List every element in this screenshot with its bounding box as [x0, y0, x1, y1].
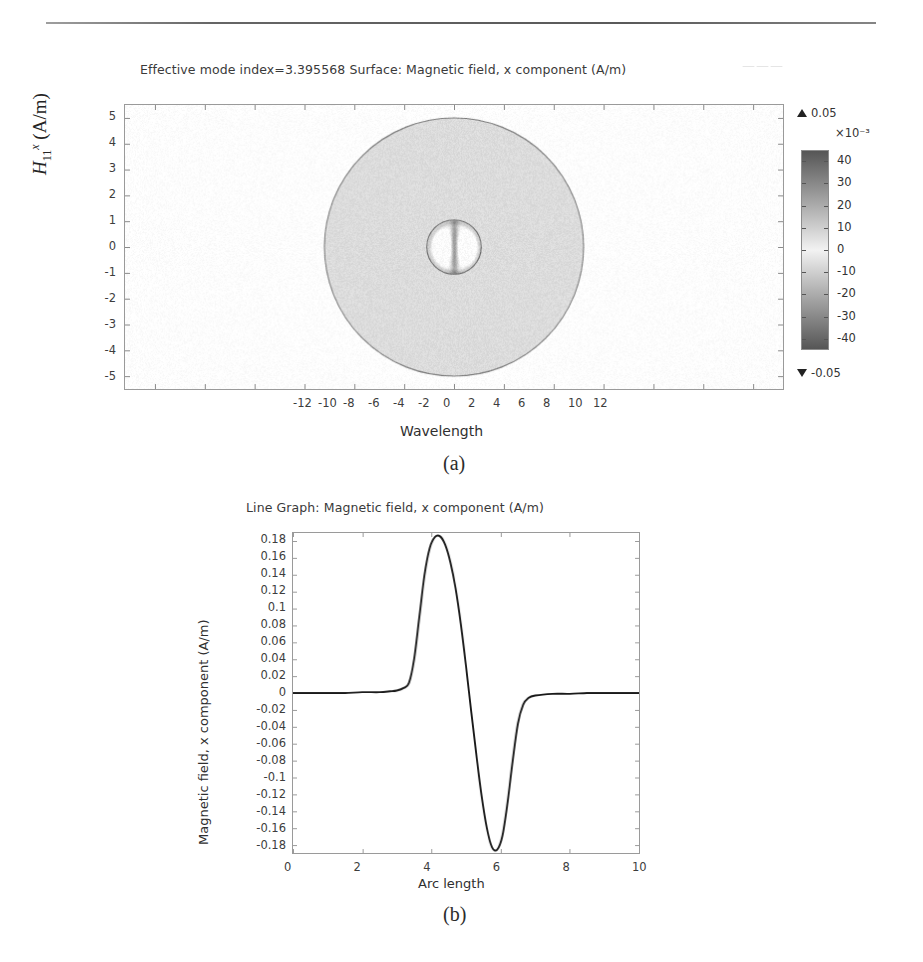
surface-y-axis-title: H11x (A/m): [28, 93, 55, 175]
line-y-tick-15: -0.12: [246, 787, 286, 801]
surface-y-tick-10: -5: [90, 369, 116, 383]
line-y-tick-18: -0.18: [246, 838, 286, 852]
line-x-axis-title: Arc length: [418, 876, 485, 891]
surface-x-tick-10: 8: [543, 396, 550, 410]
colorbar-tickmark-4: [802, 250, 806, 251]
surface-y-tick-5: 0: [90, 239, 116, 253]
triangle-down-icon: [797, 369, 807, 377]
line-y-tick-7: 0.04: [246, 651, 286, 665]
surface-y-tick-2: 3: [90, 161, 116, 175]
line-y-tick-5: 0.08: [246, 617, 286, 631]
surface-x-tick-3: -6: [368, 396, 379, 410]
colorbar-tickmark-2: [802, 206, 806, 207]
colorbar-tickmark-0: [802, 161, 806, 162]
line-y-tick-13: -0.08: [246, 753, 286, 767]
colorbar-tickmark-3: [802, 228, 806, 229]
panel-b-caption: (b): [443, 903, 466, 926]
line-plot-title: Line Graph: Magnetic field, x component …: [246, 500, 544, 515]
surface-x-tick-4: -4: [393, 396, 404, 410]
line-plot-canvas: [293, 533, 639, 853]
line-y-tick-10: -0.02: [246, 702, 286, 716]
line-y-tick-6: 0.06: [246, 634, 286, 648]
line-x-tick-5: 10: [632, 860, 647, 874]
surface-y-tick-8: -3: [90, 317, 116, 331]
surface-x-tick-2: -8: [343, 396, 354, 410]
colorbar-tickmark-right-8: [824, 339, 828, 340]
y-axis-subscript: 11: [40, 150, 54, 162]
line-x-tick-1: 2: [354, 860, 361, 874]
surface-x-tick-11: 10: [568, 396, 583, 410]
colorbar-tick-1: 30: [837, 175, 852, 189]
surface-y-tick-7: -2: [90, 291, 116, 305]
colorbar-tick-0: 40: [837, 153, 852, 167]
colorbar-tickmark-right-3: [824, 228, 828, 229]
surface-y-tick-6: -1: [90, 265, 116, 279]
colorbar-tickmark-right-2: [824, 206, 828, 207]
colorbar-tickmark-right-0: [824, 161, 828, 162]
surface-x-tick-9: 6: [518, 396, 525, 410]
line-y-tick-0: 0.18: [246, 532, 286, 546]
scan-artifact: ———: [742, 58, 872, 84]
colorbar: 0.05 ×10⁻³ 403020100-10-20-30-40 -0.05: [795, 104, 920, 394]
surface-y-tick-0: 5: [90, 109, 116, 123]
triangle-up-icon: [797, 109, 807, 117]
line-x-tick-2: 4: [423, 860, 430, 874]
colorbar-tick-6: -20: [837, 286, 856, 300]
surface-y-tick-9: -4: [90, 343, 116, 357]
line-x-tick-4: 8: [562, 860, 569, 874]
line-y-tick-9: 0: [246, 685, 286, 699]
line-y-tick-14: -0.1: [246, 770, 286, 784]
colorbar-max-row: 0.05: [797, 106, 837, 120]
line-y-tick-11: -0.04: [246, 719, 286, 733]
line-y-tick-4: 0.1: [246, 600, 286, 614]
line-y-axis-title: Magnetic field, x component (A/m): [196, 619, 211, 845]
colorbar-tick-8: -40: [837, 331, 856, 345]
y-axis-unit: (A/m): [29, 93, 50, 139]
colorbar-tickmark-right-7: [824, 317, 828, 318]
surface-x-tick-6: 0: [443, 396, 450, 410]
page-separator-rule: [46, 22, 876, 24]
line-y-tick-12: -0.06: [246, 736, 286, 750]
surface-y-tick-1: 4: [90, 135, 116, 149]
surface-x-tick-8: 4: [493, 396, 500, 410]
line-y-tick-17: -0.16: [246, 821, 286, 835]
y-axis-superscript: x: [28, 144, 42, 149]
colorbar-tickmark-6: [802, 294, 806, 295]
line-y-tick-8: 0.02: [246, 668, 286, 682]
colorbar-tickmark-right-1: [824, 183, 828, 184]
surface-y-tick-3: 2: [90, 187, 116, 201]
surface-x-tick-1: -10: [318, 396, 337, 410]
line-plot-frame: [292, 532, 640, 854]
surface-plot-canvas: [125, 105, 783, 389]
colorbar-tick-2: 20: [837, 198, 852, 212]
colorbar-tick-4: 0: [837, 242, 844, 256]
colorbar-tickmark-right-4: [824, 250, 828, 251]
line-y-tick-1: 0.16: [246, 549, 286, 563]
colorbar-tickmark-right-6: [824, 294, 828, 295]
line-y-tick-3: 0.12: [246, 583, 286, 597]
colorbar-tickmark-7: [802, 317, 806, 318]
surface-x-axis-title: Wavelength: [400, 423, 483, 439]
line-y-tick-2: 0.14: [246, 566, 286, 580]
surface-x-tick-7: 2: [468, 396, 475, 410]
surface-y-tick-4: 1: [90, 213, 116, 227]
colorbar-tickmark-1: [802, 183, 806, 184]
colorbar-max-label: 0.05: [811, 106, 837, 120]
colorbar-tick-5: -10: [837, 264, 856, 278]
colorbar-exponent: ×10⁻³: [835, 126, 870, 140]
colorbar-tickmark-8: [802, 339, 806, 340]
colorbar-tickmark-right-5: [824, 272, 828, 273]
surface-plot-frame: [124, 104, 784, 390]
surface-x-tick-5: -2: [418, 396, 429, 410]
surface-plot-title: Effective mode index=3.395568 Surface: M…: [140, 62, 626, 77]
colorbar-tick-7: -30: [837, 309, 856, 323]
panel-a-caption: (a): [443, 452, 465, 475]
colorbar-tickmark-5: [802, 272, 806, 273]
surface-x-tick-0: -12: [293, 396, 312, 410]
y-axis-symbol: H: [29, 161, 50, 175]
colorbar-tick-3: 10: [837, 220, 852, 234]
line-x-tick-3: 6: [493, 860, 500, 874]
colorbar-min-row: -0.05: [797, 366, 841, 380]
surface-x-tick-12: 12: [593, 396, 608, 410]
line-x-tick-0: 0: [284, 860, 291, 874]
